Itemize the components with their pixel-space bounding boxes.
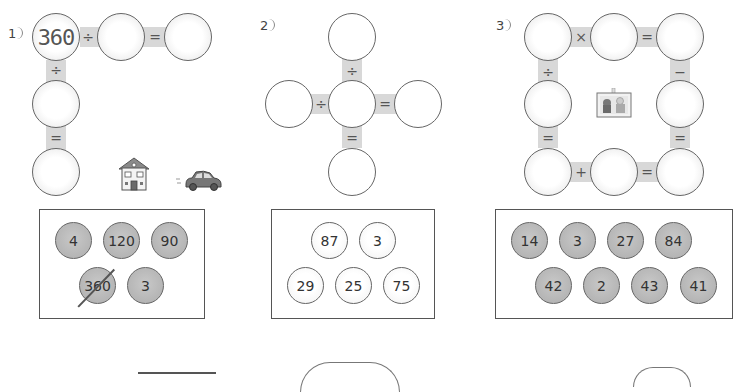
- problem-number-text: 2: [260, 18, 268, 33]
- number-chip[interactable]: 3: [359, 222, 396, 259]
- cropped-speech-bubble: [300, 362, 400, 392]
- answer-bubble[interactable]: [656, 80, 704, 128]
- answer-bubble[interactable]: [590, 148, 638, 196]
- house-icon: [117, 155, 151, 192]
- problem-number-text: 1: [8, 26, 16, 41]
- answer-bubble[interactable]: [164, 13, 212, 61]
- answer-bubble[interactable]: [97, 13, 145, 61]
- divide-operator: ÷: [538, 62, 558, 82]
- cropped-bar: [138, 372, 216, 374]
- number-chip[interactable]: 87: [311, 222, 348, 259]
- number-chip[interactable]: 90: [151, 222, 188, 259]
- paren-mark: [505, 19, 511, 31]
- minus-operator: −: [670, 62, 690, 82]
- car-icon: [174, 170, 222, 192]
- problem-number: 3: [496, 18, 511, 33]
- equals-operator: =: [145, 27, 165, 47]
- answer-bubble[interactable]: [32, 80, 80, 128]
- problem-number-text: 3: [496, 18, 504, 33]
- answer-bubble[interactable]: [32, 148, 80, 196]
- cropped-speech-bubble: [633, 367, 691, 387]
- number-chip[interactable]: 3: [127, 267, 164, 304]
- given-value: 360: [38, 25, 75, 50]
- number-chip[interactable]: 43: [631, 267, 668, 304]
- answer-bubble[interactable]: [524, 13, 572, 61]
- multiply-operator: ×: [571, 27, 591, 47]
- photo-frame-icon: [596, 88, 632, 118]
- divide-operator: ÷: [342, 61, 362, 81]
- equals-operator: =: [46, 128, 66, 148]
- answer-bubble[interactable]: [524, 80, 572, 128]
- problem-number: 1: [8, 26, 23, 41]
- answer-bubble[interactable]: [524, 148, 572, 196]
- answer-bubble[interactable]: [656, 148, 704, 196]
- divide-operator: ÷: [78, 27, 98, 47]
- answer-circle[interactable]: [328, 80, 376, 128]
- answer-bubble[interactable]: [590, 13, 638, 61]
- answer-circle[interactable]: [265, 80, 313, 128]
- number-chip[interactable]: 75: [383, 267, 420, 304]
- number-chip[interactable]: 42: [535, 267, 572, 304]
- number-chip[interactable]: 2: [583, 267, 620, 304]
- equals-operator: =: [637, 27, 657, 47]
- plus-operator: +: [571, 162, 591, 182]
- number-chip[interactable]: 29: [287, 267, 324, 304]
- problem-number: 2: [260, 18, 275, 33]
- answer-circle[interactable]: [394, 80, 442, 128]
- number-chip[interactable]: 14: [511, 222, 548, 259]
- number-chip[interactable]: 84: [655, 222, 692, 259]
- number-chip[interactable]: 4: [55, 222, 92, 259]
- equals-operator: =: [670, 128, 690, 148]
- number-chip[interactable]: 120: [103, 222, 140, 259]
- answer-bubble-given: 360: [32, 13, 80, 61]
- number-chip[interactable]: 3: [559, 222, 596, 259]
- answer-bubble[interactable]: [656, 13, 704, 61]
- equals-operator: =: [375, 94, 395, 114]
- number-chip[interactable]: 25: [335, 267, 372, 304]
- equals-operator: =: [637, 162, 657, 182]
- paren-mark: [269, 19, 275, 31]
- paren-mark: [17, 27, 23, 39]
- answer-circle[interactable]: [328, 13, 376, 61]
- divide-operator: ÷: [46, 60, 66, 80]
- equals-operator: =: [342, 128, 362, 148]
- equals-operator: =: [538, 128, 558, 148]
- answer-circle[interactable]: [328, 148, 376, 196]
- number-chip[interactable]: 27: [607, 222, 644, 259]
- number-chip[interactable]: 41: [680, 267, 717, 304]
